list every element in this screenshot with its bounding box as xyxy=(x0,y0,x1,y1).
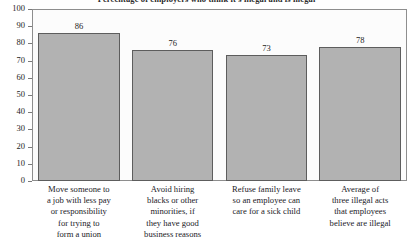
x-axis-category-labels: Move someone toa job with less payor res… xyxy=(32,184,407,246)
x-axis-category-label-line: believe are illegal xyxy=(314,218,406,229)
x-axis-category-label-line: Avoid hiring xyxy=(127,184,219,195)
x-axis-category-label: Refuse family leaveso an employee cancar… xyxy=(220,184,314,218)
y-axis-tick-label: 30 xyxy=(17,123,26,134)
x-axis-category-label-line: they have good xyxy=(127,218,219,229)
bar[interactable] xyxy=(226,55,308,181)
y-axis-tick-label: 70 xyxy=(17,55,26,66)
y-axis-tick-label: 60 xyxy=(17,72,26,83)
chart-title: Percentage of employers who think it's i… xyxy=(0,0,413,4)
bar-value-label: 78 xyxy=(313,35,407,45)
bar[interactable] xyxy=(319,47,401,181)
bar[interactable] xyxy=(38,33,120,181)
y-axis-tick-label: 90 xyxy=(17,20,26,31)
y-axis-tick-label: 80 xyxy=(17,37,26,48)
bar[interactable] xyxy=(132,50,214,181)
x-axis-category-label-line: so an employee can xyxy=(221,195,313,206)
x-axis-category-label-line: form a union xyxy=(33,229,125,240)
x-axis-category-label-line: minorities, if xyxy=(127,206,219,217)
x-axis-category-label-line: or responsibility xyxy=(33,206,125,217)
chart-screenshot: Percentage of employers who think it's i… xyxy=(0,0,413,246)
x-axis-category-label-line: Refuse family leave xyxy=(221,184,313,195)
x-axis-category-label-line: a job with less pay xyxy=(33,195,125,206)
y-axis: 0102030405060708090100 xyxy=(0,9,32,181)
y-axis-tick-label: 0 xyxy=(21,175,25,186)
bar-slot: 86 xyxy=(32,9,126,181)
bar-value-label: 86 xyxy=(32,21,126,31)
x-axis-category-label-line: that employees xyxy=(314,206,406,217)
x-axis-category-label: Avoid hiringblacks or otherminorities, i… xyxy=(126,184,220,240)
bar-slot: 78 xyxy=(313,9,407,181)
bar-value-label: 76 xyxy=(126,38,220,48)
x-axis-category-label-line: for trying to xyxy=(33,218,125,229)
y-axis-tick-label: 50 xyxy=(17,89,26,100)
x-axis-category-label: Average ofthree illegal actsthat employe… xyxy=(313,184,407,229)
x-axis-category-label-line: business reasons xyxy=(127,229,219,240)
bar-slot: 73 xyxy=(220,9,314,181)
x-axis-category-label-line: three illegal acts xyxy=(314,195,406,206)
x-axis-category-label-line: blacks or other xyxy=(127,195,219,206)
bar-series: 86767378 xyxy=(32,9,407,181)
y-axis-tick-label: 40 xyxy=(17,106,26,117)
bar-value-label: 73 xyxy=(220,43,314,53)
y-axis-tick-mark xyxy=(28,181,32,182)
x-axis-category-label-line: Move someone to xyxy=(33,184,125,195)
y-axis-tick-label: 20 xyxy=(17,141,26,152)
bar-slot: 76 xyxy=(126,9,220,181)
x-axis-category-label: Move someone toa job with less payor res… xyxy=(32,184,126,240)
x-axis-category-label-line: Average of xyxy=(314,184,406,195)
y-axis-tick-label: 100 xyxy=(12,3,25,14)
y-axis-tick-label: 10 xyxy=(17,158,26,169)
x-axis-category-label-line: care for a sick child xyxy=(221,206,313,217)
